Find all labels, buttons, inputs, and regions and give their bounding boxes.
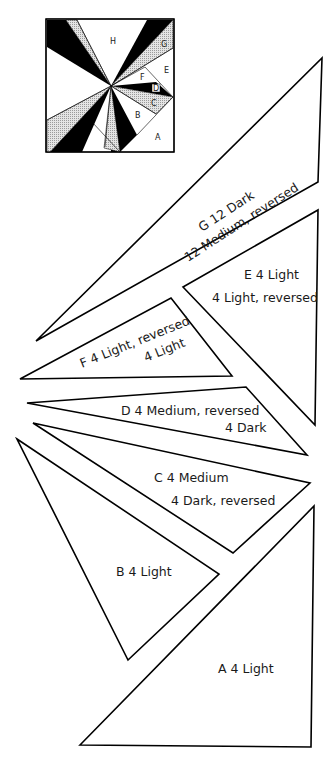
block-label-f: F	[140, 73, 145, 82]
piece-b-label: B 4 Light	[116, 564, 172, 579]
quilt-block-thumbnail: H G E F D C B A	[46, 19, 174, 152]
piece-e-label-line2: 4 Light, reversed	[212, 290, 318, 305]
block-label-g: G	[161, 40, 167, 49]
block-label-c: C	[151, 99, 157, 108]
block-label-a: A	[155, 133, 161, 142]
quilt-pattern-diagram: H G E F D C B A G 12 Dark 12 Medium, rev…	[0, 0, 332, 759]
piece-c-label-line1: C 4 Medium	[154, 470, 229, 485]
block-label-b: B	[135, 111, 141, 120]
piece-e-label-line1: E 4 Light	[244, 267, 299, 282]
piece-c-label-line2: 4 Dark, reversed	[171, 493, 275, 508]
block-label-e: E	[164, 66, 169, 75]
piece-d-label-line1: D 4 Medium, reversed	[121, 403, 259, 418]
piece-d-label-line2: 4 Dark	[225, 420, 267, 435]
block-label-h: H	[110, 37, 116, 46]
piece-a-label: A 4 Light	[218, 661, 274, 676]
block-label-d: D	[153, 84, 159, 93]
